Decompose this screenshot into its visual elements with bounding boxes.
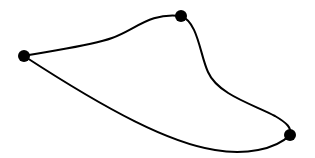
node-bottom-right [284,129,296,141]
edge-top-bottom-right [181,16,290,135]
node-left [18,50,30,62]
node-top [175,10,187,22]
edge-left-top [24,15,181,56]
diagram-canvas [0,0,315,158]
